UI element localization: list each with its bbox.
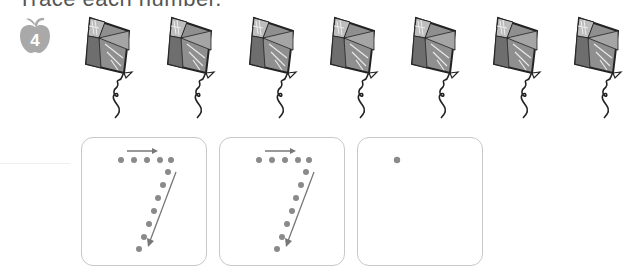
apple-number-badge: 4 xyxy=(18,16,52,54)
kite-1 xyxy=(85,14,147,122)
kite-icon xyxy=(574,14,636,122)
kite-icon xyxy=(249,14,311,122)
dotted-seven-guide xyxy=(220,138,346,267)
kite-icon xyxy=(493,14,555,122)
kite-3 xyxy=(249,14,311,122)
start-dot xyxy=(358,138,484,267)
kite-5 xyxy=(411,14,473,122)
kite-icon xyxy=(85,14,147,122)
kite-icon xyxy=(411,14,473,122)
kite-icon xyxy=(330,14,392,122)
tracing-box-2[interactable] xyxy=(219,137,345,266)
dotted-seven-guide xyxy=(82,138,208,267)
tracing-box-1[interactable] xyxy=(81,137,207,266)
apple-icon: 4 xyxy=(18,16,52,54)
badge-number: 4 xyxy=(30,31,40,50)
kite-6 xyxy=(493,14,555,122)
tracing-box-3[interactable] xyxy=(357,137,483,266)
kite-4 xyxy=(330,14,392,122)
kite-7 xyxy=(574,14,636,122)
kite-2 xyxy=(167,14,229,122)
arrow-right-icon xyxy=(290,148,296,154)
arrow-right-icon xyxy=(152,148,158,154)
divider-line xyxy=(0,163,70,164)
kite-icon xyxy=(167,14,229,122)
instruction-title: Trace each number. xyxy=(18,0,222,12)
